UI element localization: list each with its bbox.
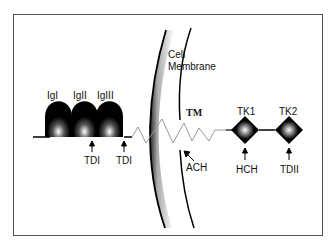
label-tdii: TDII xyxy=(280,164,299,175)
ig-domain-2 xyxy=(71,101,98,137)
label-ach: ACH xyxy=(186,162,207,173)
arrow-up-icon xyxy=(122,141,127,152)
arrow-up-icon xyxy=(243,148,248,160)
label-tdi-2: TDI xyxy=(116,155,132,166)
arrow-diagonal-icon xyxy=(184,151,194,161)
label-igii: IgII xyxy=(73,90,87,101)
label-hch: HCH xyxy=(236,164,258,175)
label-tk1: TK1 xyxy=(237,106,255,117)
arrow-up-icon xyxy=(287,148,292,160)
label-igi: IgI xyxy=(47,90,58,101)
label-igiii: IgIII xyxy=(97,90,114,101)
arrow-up-icon xyxy=(90,141,95,152)
label-tm: TM xyxy=(186,107,202,118)
ig-domain-3 xyxy=(96,101,123,137)
kinase-domain-2 xyxy=(275,116,303,144)
receptor-diagram xyxy=(0,0,334,246)
transmembrane-zigzag xyxy=(132,119,226,143)
kinase-domain-1 xyxy=(231,116,259,144)
label-cell: Cell xyxy=(168,49,185,60)
label-tdi-1: TDI xyxy=(84,155,100,166)
label-tk2: TK2 xyxy=(279,106,297,117)
label-membrane: Membrane xyxy=(168,61,216,72)
ig-domain-1 xyxy=(45,101,72,137)
